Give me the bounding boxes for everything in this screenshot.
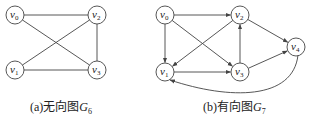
node-v3: v3 <box>88 61 106 79</box>
caption-text: 无向图 <box>43 100 79 114</box>
node-v4: v4 <box>287 38 305 56</box>
caption-sub: 7 <box>262 107 266 116</box>
node-v2: v2 <box>231 6 249 24</box>
caption-g6: (a)无向图G6 <box>30 97 92 116</box>
caption-prefix: (a) <box>30 100 43 114</box>
node-v2: v2 <box>88 6 106 24</box>
edge-v3-v4 <box>248 51 287 68</box>
edge-v2-v4 <box>248 19 288 42</box>
undirected-graph-g6: v0v2v1v3 <box>6 6 106 79</box>
directed-graph-g7: v0v2v4v1v3 <box>156 6 305 93</box>
caption-g7: (b)有向图G7 <box>203 97 266 116</box>
caption-prefix: (b) <box>203 100 217 114</box>
caption-sub: 6 <box>88 107 92 116</box>
node-v3: v3 <box>231 63 249 81</box>
node-v1: v1 <box>6 61 24 79</box>
caption-text: 有向图 <box>217 100 253 114</box>
caption-symbol: G <box>79 100 88 114</box>
node-v0: v0 <box>156 6 174 24</box>
node-v1: v1 <box>156 63 174 81</box>
caption-symbol: G <box>253 100 262 114</box>
node-v0: v0 <box>6 6 24 24</box>
